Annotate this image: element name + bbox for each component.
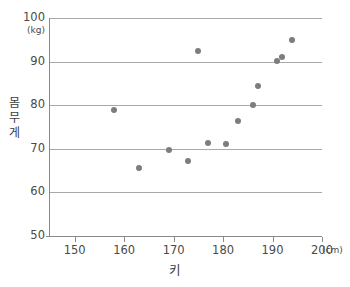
y-tick-label-50: 50 bbox=[5, 230, 45, 242]
y-axis-title-char-0: 몸 bbox=[6, 96, 22, 111]
x-axis-title: 키 bbox=[0, 264, 350, 277]
x-tick-mark-200 bbox=[322, 237, 323, 242]
y-axis-title-char-1: 무 bbox=[6, 111, 22, 126]
x-tick-label-150: 150 bbox=[53, 244, 97, 256]
y-axis-title-char-2: 게 bbox=[6, 126, 22, 141]
y-tick-label-70: 70 bbox=[5, 143, 45, 155]
y-axis-title: 몸무게 bbox=[6, 96, 22, 141]
scatter-chart: 5060708090100 (kg) 150160170180190200 (c… bbox=[0, 0, 350, 287]
x-tick-label-190: 190 bbox=[251, 244, 295, 256]
data-point bbox=[166, 147, 172, 153]
x-tick-mark-150 bbox=[75, 237, 76, 242]
x-tick-mark-190 bbox=[273, 237, 274, 242]
data-point bbox=[255, 83, 261, 89]
gridline-y-90 bbox=[50, 62, 322, 63]
x-tick-mark-170 bbox=[174, 237, 175, 242]
x-tick-label-180: 180 bbox=[201, 244, 245, 256]
plot-area bbox=[50, 18, 322, 236]
data-point bbox=[250, 102, 256, 108]
x-axis-line bbox=[46, 236, 322, 237]
y-tick-label-100: 100 bbox=[5, 12, 45, 24]
x-tick-label-160: 160 bbox=[102, 244, 146, 256]
x-tick-mark-160 bbox=[124, 237, 125, 242]
data-point bbox=[235, 118, 241, 124]
gridline-y-80 bbox=[50, 105, 322, 106]
y-axis-unit-label: (kg) bbox=[0, 26, 45, 35]
x-tick-label-170: 170 bbox=[152, 244, 196, 256]
y-tick-label-90: 90 bbox=[5, 56, 45, 68]
gridline-y-60 bbox=[50, 192, 322, 193]
x-axis-unit-label: (cm) bbox=[322, 246, 343, 255]
x-tick-mark-180 bbox=[223, 237, 224, 242]
y-axis-tick-labels: 5060708090100 bbox=[0, 0, 45, 287]
gridline-y-70 bbox=[50, 149, 322, 150]
y-axis-line bbox=[49, 18, 50, 237]
y-tick-label-60: 60 bbox=[5, 186, 45, 198]
gridline-y-100 bbox=[50, 18, 322, 19]
